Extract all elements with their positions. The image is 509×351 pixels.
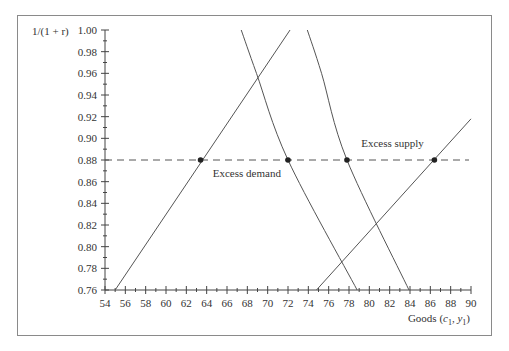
x-tick-label: 82 [384,297,395,309]
y-tick-label: 0.80 [78,241,98,253]
y-tick-label: 0.78 [78,262,98,274]
x-tick-label: 70 [262,297,274,309]
y-tick-label: 0.82 [78,219,97,231]
y-tick-label: 0.88 [78,154,98,166]
x-tick-label: 54 [100,297,112,309]
x-tick-label: 66 [222,297,234,309]
x-tick-label: 72 [283,297,294,309]
x-tick-label: 78 [344,297,356,309]
x-tick-label: 68 [242,297,254,309]
y-tick-label: 0.94 [78,89,98,101]
y-tick-label: 0.96 [78,67,98,79]
x-tick-label: 56 [120,297,132,309]
x-tick-label: 90 [466,297,478,309]
x-tick-label: 64 [201,297,213,309]
y-tick-label: 0.98 [78,46,98,58]
x-tick-label: 74 [303,297,315,309]
x-tick-label: 76 [323,297,335,309]
x-tick-label: 60 [161,297,173,309]
x-tick-label: 84 [405,297,417,309]
chart: 0.760.780.800.820.840.860.880.900.920.94… [0,0,509,351]
x-axis-title: Goods (c1, y1) [408,312,470,327]
intersection-marker [344,157,350,163]
x-tick-label: 86 [425,297,437,309]
x-tick-label: 80 [364,297,376,309]
intersection-marker [285,157,291,163]
markers-group: Excess demandExcess supply [198,137,437,178]
y-tick-label: 0.84 [78,197,98,209]
x-tick-label: 58 [140,297,152,309]
x-tick-label: 62 [181,297,192,309]
y-tick-label: 0.90 [78,132,98,144]
y-tick-label: 0.76 [78,284,98,296]
intersection-marker [432,157,438,163]
intersection-marker [198,157,204,163]
annotation-excess-supply: Excess supply [361,137,424,149]
y-tick-label: 0.92 [78,111,97,123]
y-axis-title: 1/(1 + r) [32,25,69,38]
annotation-excess-demand: Excess demand [213,167,282,179]
y-tick-label: 1.00 [78,24,98,36]
y-tick-label: 0.86 [78,176,98,188]
x-tick-label: 88 [445,297,457,309]
